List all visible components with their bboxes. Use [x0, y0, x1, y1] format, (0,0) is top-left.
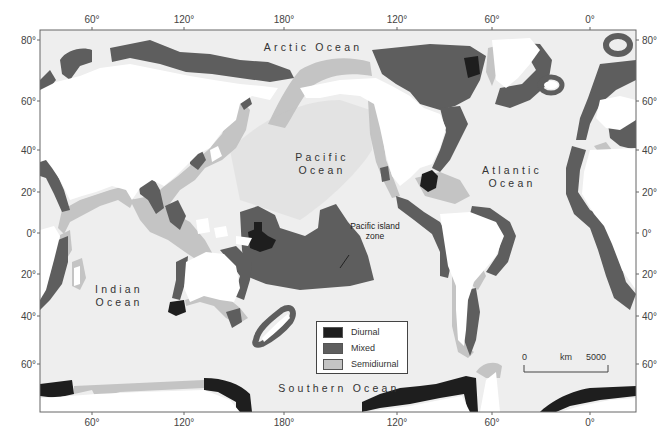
left-tick-60s: 60°	[8, 359, 36, 370]
left-tick-40s: 40°	[8, 311, 36, 322]
scale-unit-label: km	[560, 352, 572, 362]
arctic-ocean-label: Arctic Ocean	[248, 41, 378, 54]
right-tick-0: 0°	[642, 228, 652, 239]
atlantic-ocean-label: Atlantic Ocean	[472, 164, 552, 190]
pacific-island-zone-label: Pacific island zone	[340, 221, 410, 241]
tide-type-world-map	[0, 0, 667, 440]
right-tick-20s: 20°	[642, 269, 657, 280]
bottom-tick-180: 180°	[274, 417, 295, 428]
pacific-ocean-label-line2: Ocean	[282, 164, 362, 177]
top-tick-60e: 60°	[84, 14, 99, 25]
left-tick-0: 0°	[8, 228, 36, 239]
bottom-tick-60e: 60°	[84, 417, 99, 428]
indian-ocean-label-line2: Ocean	[84, 296, 154, 309]
scale-start-label: 0	[522, 352, 527, 362]
pacific-ocean-label: Pacific Ocean	[282, 151, 362, 177]
right-tick-60s: 60°	[642, 359, 657, 370]
pacific-ocean-label-line1: Pacific	[282, 151, 362, 164]
legend-item-semidiurnal: Semidiurnal	[323, 358, 399, 370]
semidiurnal-swatch	[323, 359, 343, 370]
top-tick-60w: 60°	[484, 14, 499, 25]
atlantic-ocean-label-line2: Ocean	[472, 177, 552, 190]
legend-item-mixed: Mixed	[323, 342, 375, 354]
indian-ocean-label: Indian Ocean	[84, 283, 154, 309]
top-tick-120e: 120°	[174, 14, 195, 25]
right-tick-40n: 40°	[642, 145, 657, 156]
top-tick-180: 180°	[274, 14, 295, 25]
legend-label-diurnal: Diurnal	[351, 327, 380, 337]
scale-end-label: 5000	[586, 352, 606, 362]
left-tick-80n: 80°	[8, 35, 36, 46]
legend-label-semidiurnal: Semidiurnal	[351, 359, 399, 369]
top-tick-120w: 120°	[387, 14, 408, 25]
right-tick-60n: 60°	[642, 96, 657, 107]
map-legend: Diurnal Mixed Semidiurnal	[316, 321, 408, 374]
left-tick-40n: 40°	[8, 145, 36, 156]
pacific-island-zone-label-line2: zone	[340, 231, 410, 241]
legend-label-mixed: Mixed	[351, 343, 375, 353]
legend-item-diurnal: Diurnal	[323, 326, 380, 338]
bottom-tick-0: 0°	[585, 417, 595, 428]
bottom-tick-120e: 120°	[174, 417, 195, 428]
top-tick-0: 0°	[585, 14, 595, 25]
left-tick-20s: 20°	[8, 269, 36, 280]
scale-bar-line	[522, 364, 612, 374]
atlantic-ocean-label-line1: Atlantic	[472, 164, 552, 177]
left-tick-60n: 60°	[8, 96, 36, 107]
left-tick-20n: 20°	[8, 187, 36, 198]
southern-ocean-label: Southern Ocean	[264, 382, 414, 395]
mixed-swatch	[323, 343, 343, 354]
right-tick-20n: 20°	[642, 187, 657, 198]
scale-bar: 0 km 5000	[522, 352, 612, 374]
right-tick-40s: 40°	[642, 311, 657, 322]
right-tick-80n: 80°	[642, 35, 657, 46]
pacific-island-zone-label-line1: Pacific island	[340, 221, 410, 231]
bottom-tick-120w: 120°	[387, 417, 408, 428]
diurnal-swatch	[323, 327, 343, 338]
bottom-tick-60w: 60°	[484, 417, 499, 428]
indian-ocean-label-line1: Indian	[84, 283, 154, 296]
